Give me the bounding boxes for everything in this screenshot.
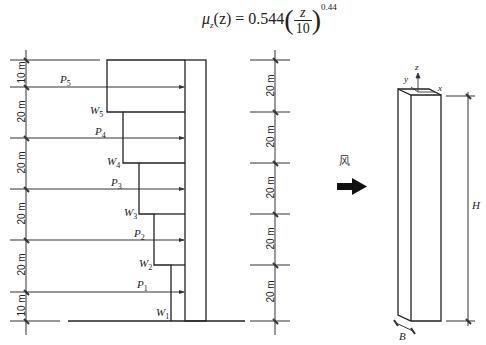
prism-building bbox=[398, 89, 441, 321]
left-dim-label: 20 m bbox=[16, 253, 27, 275]
left-dim-label: 20 m bbox=[16, 202, 27, 224]
load-w4: W4 bbox=[107, 155, 120, 170]
load-p1: P1 bbox=[137, 278, 148, 293]
load-w-symbol: W bbox=[124, 206, 133, 218]
load-p-subscript: 1 bbox=[144, 284, 148, 293]
load-p5: P5 bbox=[60, 73, 71, 88]
left-paren: ( bbox=[284, 4, 293, 35]
load-w2: W2 bbox=[139, 257, 152, 272]
stepped-structure bbox=[68, 60, 245, 321]
right-dim-label: 20 m bbox=[265, 227, 276, 249]
load-w-subscript: 2 bbox=[148, 263, 152, 272]
exponent: 0.44 bbox=[321, 2, 337, 12]
diagram-canvas bbox=[0, 0, 486, 345]
axis-x-label: x bbox=[438, 83, 442, 93]
left-dim-label: 10 m bbox=[16, 294, 27, 316]
load-p3: P3 bbox=[111, 176, 122, 191]
left-dim-label: 20 m bbox=[16, 151, 27, 173]
load-w-symbol: W bbox=[156, 306, 165, 318]
height-dimension bbox=[446, 92, 475, 326]
mu-argument: (z) bbox=[214, 10, 232, 27]
load-p-subscript: 4 bbox=[102, 131, 106, 140]
right-dim-label: 20 m bbox=[265, 74, 276, 96]
width-label: B bbox=[399, 330, 406, 342]
wind-arrow-icon bbox=[337, 178, 367, 195]
load-p-symbol: P bbox=[134, 227, 141, 239]
left-dim-label: 20 m bbox=[16, 100, 27, 122]
load-w-symbol: W bbox=[139, 257, 148, 269]
fraction-numerator: z bbox=[294, 5, 312, 21]
load-w-subscript: 5 bbox=[99, 110, 103, 119]
wind-pressure-formula: μz(z) = 0.544(z10)0.44 bbox=[202, 4, 337, 36]
load-p-subscript: 2 bbox=[141, 233, 145, 242]
load-w1: W1 bbox=[156, 306, 169, 321]
axis-z-label: z bbox=[415, 62, 419, 72]
load-p2: P2 bbox=[134, 227, 145, 242]
equals-sign: = bbox=[231, 10, 248, 27]
coefficient: 0.544 bbox=[248, 10, 284, 27]
right-dim-label: 20 m bbox=[265, 125, 276, 147]
load-p-subscript: 5 bbox=[67, 79, 71, 88]
left-dimension-ticks bbox=[10, 60, 184, 321]
mu-symbol: μ bbox=[202, 10, 210, 27]
right-dim-label: 20 m bbox=[265, 280, 276, 302]
load-w-subscript: 3 bbox=[133, 212, 137, 221]
load-w-subscript: 4 bbox=[116, 161, 120, 170]
load-w-symbol: W bbox=[90, 104, 99, 116]
load-p4: P4 bbox=[95, 125, 106, 140]
left-dim-label: 10 m bbox=[16, 61, 27, 83]
load-w5: W5 bbox=[90, 104, 103, 119]
fraction: z10 bbox=[294, 5, 312, 36]
load-p-symbol: P bbox=[137, 278, 144, 290]
load-p-subscript: 3 bbox=[118, 182, 122, 191]
load-w-subscript: 1 bbox=[165, 312, 169, 321]
load-arrowheads bbox=[179, 85, 185, 294]
fraction-denominator: 10 bbox=[294, 21, 312, 36]
right-dim-label: 20 m bbox=[265, 176, 276, 198]
axis-y-label: y bbox=[404, 74, 408, 84]
height-label: H bbox=[472, 199, 480, 211]
load-p-symbol: P bbox=[60, 73, 67, 85]
load-w-symbol: W bbox=[107, 155, 116, 167]
right-paren: ) bbox=[312, 4, 321, 35]
wind-label: 风 bbox=[339, 152, 350, 168]
load-p-symbol: P bbox=[111, 176, 118, 188]
load-p-symbol: P bbox=[95, 125, 102, 137]
load-w3: W3 bbox=[124, 206, 137, 221]
